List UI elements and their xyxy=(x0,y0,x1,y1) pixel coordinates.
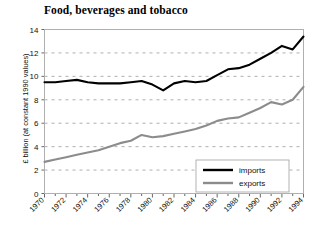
x-tick-label: 1982 xyxy=(157,196,175,214)
y-axis-ticks: 02468101214 xyxy=(30,26,45,199)
data-series xyxy=(45,37,304,162)
y-tick-label: 6 xyxy=(34,119,39,128)
x-tick-label: 1980 xyxy=(136,196,154,214)
x-tick-label: 1986 xyxy=(200,196,218,214)
series-line-imports xyxy=(45,37,304,91)
x-tick-label: 1976 xyxy=(92,196,110,214)
plot-area: 02468101214 1970197219741976197819801982… xyxy=(0,0,318,238)
y-tick-label: 10 xyxy=(30,72,39,81)
x-tick-label: 1992 xyxy=(265,196,283,214)
x-tick-label: 1974 xyxy=(71,196,89,214)
y-tick-label: 14 xyxy=(30,26,39,35)
y-tick-label: 12 xyxy=(30,49,39,58)
x-tick-label: 1970 xyxy=(28,196,46,214)
chart-figure: Food, beverages and tobacco £ billion (a… xyxy=(0,0,318,238)
y-tick-label: 8 xyxy=(34,96,39,105)
series-line-exports xyxy=(45,87,304,162)
x-tick-label: 1972 xyxy=(49,196,67,214)
x-tick-label: 1990 xyxy=(243,196,261,214)
y-tick-label: 2 xyxy=(34,166,39,175)
x-tick-label: 1978 xyxy=(114,196,132,214)
x-tick-label: 1988 xyxy=(222,196,240,214)
x-axis-ticks: 1970197219741976197819801982198419861988… xyxy=(28,194,305,214)
x-tick-label: 1994 xyxy=(287,196,305,214)
legend[interactable]: importsexports xyxy=(196,160,289,192)
legend-label-imports[interactable]: imports xyxy=(239,166,265,175)
legend-label-exports[interactable]: exports xyxy=(239,179,265,188)
y-tick-label: 4 xyxy=(34,143,39,152)
x-tick-label: 1984 xyxy=(179,196,197,214)
